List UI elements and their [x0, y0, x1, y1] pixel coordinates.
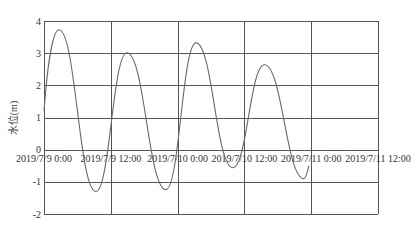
y-tick-label: -1 [33, 176, 41, 187]
grid-lines [44, 21, 379, 215]
x-axis-ticks: 2019/7/9 0:002019/7/9 12:002019/7/10 0:0… [16, 153, 411, 164]
x-tick-label: 2019/7/10 0:00 [147, 153, 208, 164]
tide-level-chart: 43210-1-2 2019/7/9 0:002019/7/9 12:00201… [0, 0, 418, 236]
x-tick-label: 2019/7/11 12:00 [345, 153, 410, 164]
x-tick-label: 2019/7/10 12:00 [211, 153, 277, 164]
y-tick-label: 2 [36, 80, 41, 91]
y-tick-label: -2 [33, 209, 41, 220]
y-tick-label: 3 [36, 48, 41, 59]
y-tick-label: 1 [36, 112, 41, 123]
y-axis-ticks: 43210-1-2 [33, 16, 41, 220]
x-tick-label: 2019/7/9 0:00 [16, 153, 72, 164]
x-tick-label: 2019/7/9 12:00 [80, 153, 141, 164]
y-axis-label: 水位(m) [7, 101, 20, 135]
x-tick-label: 2019/7/11 0:00 [281, 153, 341, 164]
y-tick-label: 4 [36, 16, 41, 27]
